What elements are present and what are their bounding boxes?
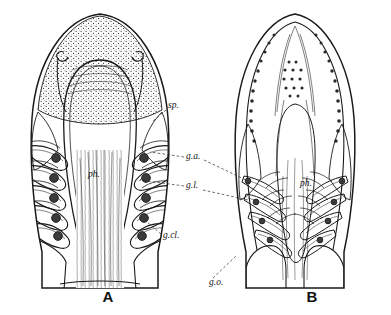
label-ph-figure-a: ph. bbox=[87, 169, 100, 179]
figure-b-letter: B bbox=[307, 288, 318, 305]
label-gl: g.l. bbox=[186, 180, 198, 190]
label-gcl: g.cl. bbox=[163, 230, 179, 240]
figure-a-letter: A bbox=[103, 288, 114, 305]
anatomical-figure-plate: A bbox=[0, 0, 391, 315]
label-ga: g.a. bbox=[186, 151, 200, 161]
label-ph-figure-b: ph. bbox=[299, 178, 312, 188]
label-sp: sp. bbox=[168, 100, 179, 110]
plate-canvas: A bbox=[0, 0, 391, 315]
label-go: g.o. bbox=[209, 277, 223, 287]
